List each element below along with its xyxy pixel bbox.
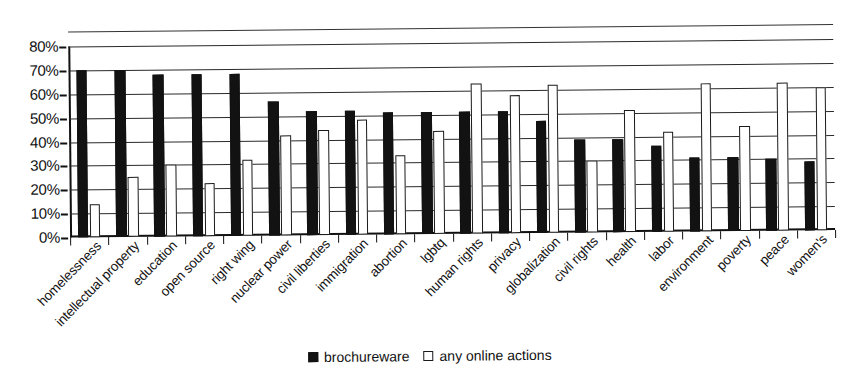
y-axis-tick-label: 10% (31, 206, 60, 221)
scanned-chart-canvas: 0%10%20%30%40%50%60%70%80% homelessnessi… (0, 0, 857, 375)
legend-label: any online actions (439, 347, 551, 364)
plot-top-border (68, 24, 833, 32)
y-axis-tick-mark (60, 118, 67, 120)
y-axis-tick-label: 70% (29, 62, 58, 77)
y-axis-tick-mark (60, 166, 67, 168)
bar-group (527, 42, 567, 233)
open-square-icon (423, 351, 433, 361)
chart-legend: brochurewareany online actions (1, 344, 857, 368)
y-axis-tick-mark (61, 190, 68, 192)
y-axis-tick-mark (59, 70, 66, 72)
bar-any-online-actions (815, 87, 827, 230)
legend-item: brochureware (308, 348, 410, 365)
y-axis-tick-label: 20% (30, 182, 59, 197)
bar-group (642, 41, 682, 232)
x-axis-category-labels: homelessnessintellectual propertyeducati… (70, 232, 857, 345)
bar-any-online-actions (701, 83, 713, 231)
y-axis: 0%10%20%30%40%50%60%70%80% (4, 31, 68, 238)
legend-item: any online actions (423, 347, 551, 364)
bar-any-online-actions (471, 83, 483, 234)
bar-group (68, 46, 108, 237)
y-axis-tick-mark (60, 142, 67, 144)
bar-any-online-actions (90, 204, 101, 238)
filled-square-icon (308, 352, 318, 362)
bar-group (680, 40, 720, 231)
bar-brochureware (459, 112, 471, 234)
bar-any-online-actions (663, 131, 674, 231)
y-axis-tick-mark (61, 237, 68, 239)
bar-group (451, 42, 491, 233)
y-axis-tick-label: 60% (30, 86, 59, 101)
bar-series-container (68, 39, 835, 237)
bar-brochureware (76, 70, 88, 237)
legend-label: brochureware (324, 348, 410, 365)
y-axis-tick-label: 50% (30, 110, 59, 125)
y-axis-tick-mark (60, 94, 67, 96)
bar-any-online-actions (548, 85, 560, 233)
y-axis-tick-mark (59, 46, 66, 48)
y-axis-tick-mark (61, 214, 68, 216)
y-axis-tick-label: 80% (29, 39, 58, 54)
y-axis-tick-label: 30% (30, 158, 59, 173)
bar-group (795, 39, 835, 230)
y-axis-tick-label: 0% (39, 230, 60, 245)
bar-group (757, 39, 797, 230)
y-axis-tick-label: 40% (30, 134, 59, 149)
